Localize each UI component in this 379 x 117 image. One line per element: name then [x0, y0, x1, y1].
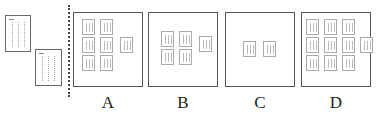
page-thumbnail	[360, 37, 373, 53]
page-thumbnail	[342, 19, 355, 35]
text-column	[124, 41, 125, 50]
text-column	[270, 45, 271, 54]
text-column	[346, 41, 347, 50]
text-column	[165, 53, 166, 62]
page-thumbnail	[82, 55, 95, 71]
text-column	[92, 59, 93, 68]
text-column	[328, 41, 329, 50]
text-column	[203, 40, 204, 49]
text-column	[18, 22, 22, 47]
text-column	[349, 59, 350, 68]
text-column	[127, 41, 128, 50]
dotted-divider	[68, 5, 70, 97]
text-column	[346, 23, 347, 32]
text-column	[349, 23, 350, 32]
text-column	[253, 45, 254, 54]
text-column	[12, 22, 16, 47]
page-thumbnail	[263, 41, 276, 57]
text-column	[352, 23, 353, 32]
text-column	[168, 53, 169, 62]
text-column	[92, 41, 93, 50]
text-column	[130, 41, 131, 50]
panel-c	[225, 12, 295, 87]
text-column	[92, 23, 93, 32]
page-thumbnail	[161, 49, 174, 65]
text-column	[86, 41, 87, 50]
text-column	[110, 41, 111, 50]
text-column	[310, 59, 311, 68]
text-column	[104, 41, 105, 50]
text-column	[165, 35, 166, 44]
panel-label-a: A	[73, 93, 143, 113]
page-thumbnail	[82, 19, 95, 35]
page-thumbnail	[100, 37, 113, 53]
text-column	[349, 41, 350, 50]
text-column	[328, 23, 329, 32]
page-thumbnail	[179, 31, 192, 47]
text-column	[89, 59, 90, 68]
text-column	[313, 59, 314, 68]
text-column	[331, 59, 332, 68]
text-column	[171, 35, 172, 44]
text-column	[89, 41, 90, 50]
text-column	[209, 40, 210, 49]
page-thumbnail	[179, 49, 192, 65]
text-column	[370, 41, 371, 50]
text-column	[107, 41, 108, 50]
text-column	[331, 23, 332, 32]
page-thumbnail	[120, 37, 133, 53]
text-column	[316, 59, 317, 68]
text-column	[247, 45, 248, 54]
text-column	[186, 35, 187, 44]
text-column	[54, 56, 58, 81]
page-header-line	[9, 19, 14, 20]
panel-a	[73, 12, 143, 87]
text-column	[104, 59, 105, 68]
page-thumbnail	[342, 37, 355, 53]
panel-b	[148, 12, 218, 87]
text-column	[107, 23, 108, 32]
source-page-2	[35, 49, 62, 86]
text-column	[273, 45, 274, 54]
panel-label-c: C	[225, 93, 295, 113]
text-column	[352, 59, 353, 68]
text-column	[189, 35, 190, 44]
text-column	[104, 23, 105, 32]
text-column	[107, 59, 108, 68]
panel-label-b: B	[148, 93, 218, 113]
text-column	[310, 41, 311, 50]
text-column	[168, 35, 169, 44]
text-column	[189, 53, 190, 62]
page-thumbnail	[161, 31, 174, 47]
text-column	[334, 23, 335, 32]
text-column	[186, 53, 187, 62]
panel-label-d: D	[301, 93, 371, 113]
text-column	[86, 59, 87, 68]
page-thumbnail	[306, 37, 319, 53]
text-column	[183, 35, 184, 44]
text-column	[267, 45, 268, 54]
text-column	[328, 59, 329, 68]
text-column	[42, 56, 46, 81]
text-column	[89, 23, 90, 32]
page-thumbnail	[199, 36, 212, 52]
text-column	[334, 41, 335, 50]
text-column	[110, 23, 111, 32]
page-thumbnail	[306, 55, 319, 71]
page-thumbnail	[243, 41, 256, 57]
text-column	[367, 41, 368, 50]
text-column	[110, 59, 111, 68]
text-column	[206, 40, 207, 49]
text-column	[346, 59, 347, 68]
page-thumbnail	[324, 37, 337, 53]
text-column	[316, 23, 317, 32]
text-column	[364, 41, 365, 50]
text-column	[86, 23, 87, 32]
text-column	[24, 22, 28, 47]
text-column	[250, 45, 251, 54]
page-thumbnail	[100, 19, 113, 35]
page-thumbnail	[82, 37, 95, 53]
page-thumbnail	[324, 19, 337, 35]
text-column	[48, 56, 52, 81]
text-column	[183, 53, 184, 62]
